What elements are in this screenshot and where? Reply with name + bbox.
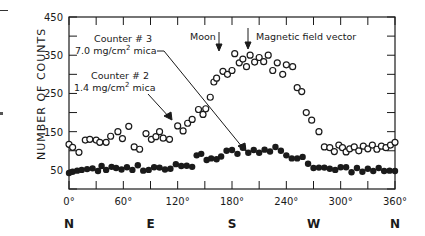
data-point-open <box>189 116 195 122</box>
compass-label: N <box>390 217 400 231</box>
compass-label: E <box>146 217 154 231</box>
data-point-filled <box>332 167 338 173</box>
data-point-open <box>392 139 398 145</box>
data-point-filled <box>321 164 327 170</box>
x-tick-label: 360° <box>383 196 407 207</box>
data-point-filled <box>135 162 141 168</box>
data-point-open <box>200 111 206 117</box>
data-point-filled <box>251 147 257 153</box>
data-point-open <box>243 64 249 70</box>
compass-label: S <box>228 217 237 231</box>
data-point-filled <box>173 161 179 167</box>
data-point-filled <box>386 167 392 173</box>
data-point-open <box>119 136 125 142</box>
x-tick-label: 240° <box>274 196 298 207</box>
data-point-filled <box>272 144 278 150</box>
data-point-filled <box>354 165 360 171</box>
data-point-filled <box>124 164 130 170</box>
data-point-open <box>283 62 289 68</box>
annotation-arrows <box>148 28 251 151</box>
x-tick-label: 180° <box>220 196 244 207</box>
data-point-open <box>167 136 173 142</box>
data-point-filled <box>189 164 195 170</box>
data-point-open <box>207 94 213 100</box>
data-point-open <box>180 128 186 134</box>
data-point-open <box>261 59 267 65</box>
data-point-filled <box>245 149 251 155</box>
data-point-open <box>309 117 315 123</box>
data-point-filled <box>198 151 204 157</box>
chart: 50150250350450 0°60°120°180°240°300°360°… <box>0 0 425 236</box>
data-point-open <box>103 139 109 145</box>
data-point-open <box>214 75 220 81</box>
data-point-filled <box>229 147 235 153</box>
data-point-filled <box>184 162 190 168</box>
y-axis-label: NUMBER OF COUNTS <box>35 28 48 160</box>
data-point-filled <box>278 148 284 154</box>
data-point-filled <box>223 148 229 154</box>
x-tick-label: 60° <box>114 196 132 207</box>
data-point-open <box>303 110 309 116</box>
data-point-filled <box>84 166 90 172</box>
data-point-filled <box>370 168 376 174</box>
data-point-filled <box>89 165 95 171</box>
data-point-filled <box>305 161 311 167</box>
data-point-open <box>299 89 305 95</box>
data-point-filled <box>145 167 151 173</box>
data-point-open <box>232 51 238 57</box>
data-point-filled <box>267 148 273 154</box>
x-tick-labels: 0°60°120°180°240°300°360° <box>63 196 407 207</box>
data-point-open <box>195 106 201 112</box>
data-point-filled <box>167 166 173 172</box>
data-point-open <box>108 133 114 139</box>
data-point-open <box>290 64 296 70</box>
data-point-filled <box>151 164 157 170</box>
compass-labels: NESWN <box>64 217 400 231</box>
x-tick-label: 120° <box>166 196 190 207</box>
data-point-filled <box>156 164 162 170</box>
x-tick-label: 300° <box>329 196 353 207</box>
data-point-open <box>331 149 337 155</box>
data-point-filled <box>234 151 240 157</box>
data-point-open <box>137 146 143 152</box>
data-point-filled <box>310 165 316 171</box>
counter2-label: Counter # 2 <box>91 70 149 81</box>
data-point-open <box>97 139 103 145</box>
data-point-filled <box>162 166 168 172</box>
data-point-open <box>280 71 286 77</box>
x-tick-label: 0° <box>63 196 74 207</box>
data-point-filled <box>359 169 365 175</box>
y-tick-label: 450 <box>44 12 63 23</box>
data-point-filled <box>140 167 146 173</box>
counter3-sublabel: 7.0 mg/cm2 mica <box>75 44 157 56</box>
moon-arrowhead-icon <box>216 44 222 51</box>
data-point-filled <box>261 146 267 152</box>
magnetic-arrowhead-icon <box>245 42 251 49</box>
data-point-filled <box>283 152 289 158</box>
data-point-filled <box>299 154 305 160</box>
data-point-filled <box>240 145 246 151</box>
counter2-sublabel: 1.4 mg/cm2 mica <box>74 81 156 93</box>
data-point-filled <box>381 168 387 174</box>
data-point-open <box>143 131 149 137</box>
compass-label: W <box>307 217 320 231</box>
counter3-leader-line <box>164 51 243 148</box>
counter2-open-circles <box>66 51 398 156</box>
data-point-open <box>247 52 253 58</box>
data-point-open <box>76 149 82 155</box>
compass-label: N <box>64 217 74 231</box>
data-point-open <box>157 129 163 135</box>
data-point-open <box>160 135 166 141</box>
data-point-open <box>126 123 132 129</box>
data-point-filled <box>178 163 184 169</box>
data-point-filled <box>129 167 135 173</box>
data-point-filled <box>208 155 214 161</box>
data-point-open <box>229 68 235 74</box>
data-point-open <box>203 106 209 112</box>
data-point-open <box>270 68 276 74</box>
data-point-filled <box>218 153 224 159</box>
data-point-filled <box>376 165 382 171</box>
counter3-label: Counter # 3 <box>94 33 152 44</box>
data-point-open <box>274 60 280 66</box>
data-point-filled <box>392 168 398 174</box>
